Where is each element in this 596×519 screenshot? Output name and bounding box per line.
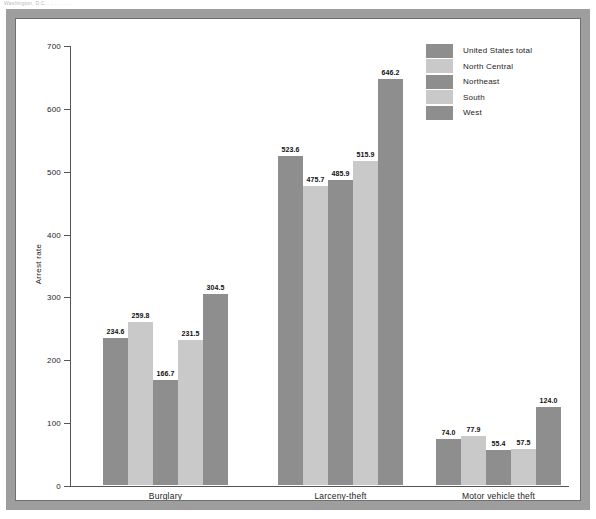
bar[interactable]: 523.6 bbox=[278, 156, 303, 485]
bar-fill bbox=[486, 450, 511, 485]
bar-value-label: 475.7 bbox=[306, 176, 324, 183]
bar-fill bbox=[436, 439, 461, 486]
bar-value-label: 55.4 bbox=[491, 440, 505, 447]
x-axis-category-label: Larceny-theft bbox=[314, 491, 366, 500]
y-axis-tick-label: 700 bbox=[47, 42, 61, 51]
y-axis-tick-label: 500 bbox=[47, 167, 61, 176]
bar-value-label: 77.9 bbox=[466, 426, 480, 433]
y-axis-tick-label: 100 bbox=[47, 419, 61, 428]
bar-fill bbox=[203, 294, 228, 485]
y-axis-tick-label: 300 bbox=[47, 293, 61, 302]
y-axis-tick bbox=[64, 486, 70, 487]
legend-swatch bbox=[426, 59, 453, 73]
y-axis-tick bbox=[64, 109, 70, 110]
chart-frame-bevel: Arrest rate 0100200300400500600700 234.6… bbox=[15, 18, 581, 501]
y-axis-line bbox=[70, 46, 71, 487]
legend-swatch bbox=[426, 75, 453, 89]
legend-swatch bbox=[426, 44, 453, 58]
bar-value-label: 523.6 bbox=[281, 146, 299, 153]
bar-chart: Arrest rate 0100200300400500600700 234.6… bbox=[16, 19, 580, 500]
bar-fill bbox=[328, 180, 353, 485]
bar-fill bbox=[461, 436, 486, 485]
bar-group: 523.6475.7485.9515.9646.2Larceny-theft bbox=[278, 45, 403, 485]
bar-value-label: 485.9 bbox=[331, 170, 349, 177]
bar[interactable]: 231.5 bbox=[178, 340, 203, 486]
legend-item[interactable]: North Central bbox=[426, 59, 580, 75]
y-axis-tick bbox=[64, 297, 70, 298]
scan-edge-text: Washington, D.C. . . . . . . . . bbox=[4, 0, 144, 7]
bar[interactable]: 55.4 bbox=[486, 450, 511, 485]
y-axis-tick-label: 600 bbox=[47, 104, 61, 113]
bar[interactable]: 234.6 bbox=[103, 338, 128, 485]
legend-swatch bbox=[426, 90, 453, 104]
y-axis-title: Arrest rate bbox=[34, 244, 43, 285]
bar-group: 234.6259.8166.7231.5304.5Burglary bbox=[103, 45, 228, 485]
legend-label: North Central bbox=[463, 62, 513, 71]
x-axis-category-label: Burglary bbox=[149, 491, 182, 500]
bar-fill bbox=[353, 161, 378, 485]
bar[interactable]: 57.5 bbox=[511, 449, 536, 485]
bar-value-label: 515.9 bbox=[356, 151, 374, 158]
legend-item[interactable]: West bbox=[426, 105, 580, 121]
bar-value-label: 57.5 bbox=[516, 439, 530, 446]
y-axis-tick bbox=[64, 423, 70, 424]
bar[interactable]: 124.0 bbox=[536, 407, 561, 485]
bar[interactable]: 646.2 bbox=[378, 79, 403, 485]
y-axis-tick bbox=[64, 235, 70, 236]
bar[interactable]: 475.7 bbox=[303, 186, 328, 485]
bar-value-label: 124.0 bbox=[539, 397, 557, 404]
bar-fill bbox=[511, 449, 536, 485]
bar[interactable]: 166.7 bbox=[153, 380, 178, 485]
bar-value-label: 166.7 bbox=[156, 370, 174, 377]
bar-fill bbox=[128, 322, 153, 485]
bar-value-label: 646.2 bbox=[381, 69, 399, 76]
legend-swatch bbox=[426, 106, 453, 120]
legend-label: South bbox=[463, 93, 485, 102]
y-axis-tick-label: 400 bbox=[47, 230, 61, 239]
legend: United States totalNorth CentralNortheas… bbox=[426, 43, 580, 121]
bar[interactable]: 77.9 bbox=[461, 436, 486, 485]
bar-fill bbox=[378, 79, 403, 485]
bar-value-label: 231.5 bbox=[181, 330, 199, 337]
chart-outer-frame: Arrest rate 0100200300400500600700 234.6… bbox=[6, 9, 590, 510]
y-axis-tick bbox=[64, 172, 70, 173]
legend-label: Northeast bbox=[463, 77, 499, 86]
bar[interactable]: 74.0 bbox=[436, 439, 461, 486]
y-axis-tick-label: 200 bbox=[47, 356, 61, 365]
bar-value-label: 304.5 bbox=[206, 284, 224, 291]
bar-value-label: 74.0 bbox=[441, 429, 455, 436]
bar-fill bbox=[536, 407, 561, 485]
bar-fill bbox=[278, 156, 303, 485]
bar-fill bbox=[153, 380, 178, 485]
x-axis-line bbox=[70, 486, 569, 487]
bar-fill bbox=[303, 186, 328, 485]
bar[interactable]: 304.5 bbox=[203, 294, 228, 485]
y-axis-tick-label: 0 bbox=[56, 482, 61, 491]
bar-value-label: 234.6 bbox=[106, 328, 124, 335]
y-axis-tick bbox=[64, 360, 70, 361]
legend-item[interactable]: South bbox=[426, 90, 580, 106]
legend-label: West bbox=[463, 108, 482, 117]
x-axis-category-label: Motor vehicle theft bbox=[462, 491, 535, 500]
legend-label: United States total bbox=[463, 46, 532, 55]
bar[interactable]: 515.9 bbox=[353, 161, 378, 485]
legend-item[interactable]: Northeast bbox=[426, 74, 580, 90]
bar-fill bbox=[103, 338, 128, 485]
bar-value-label: 259.8 bbox=[131, 312, 149, 319]
bar[interactable]: 485.9 bbox=[328, 180, 353, 485]
bar[interactable]: 259.8 bbox=[128, 322, 153, 485]
legend-item[interactable]: United States total bbox=[426, 43, 580, 59]
y-axis-tick bbox=[64, 46, 70, 47]
bar-fill bbox=[178, 340, 203, 486]
